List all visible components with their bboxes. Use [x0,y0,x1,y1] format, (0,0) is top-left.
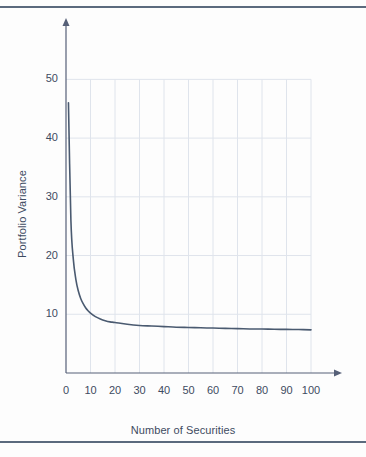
y-tick-label: 30 [32,190,58,202]
x-tick-label: 30 [127,384,153,396]
x-tick-label: 80 [249,384,275,396]
x-tick-label: 0 [53,384,79,396]
y-tick-label: 10 [32,307,58,319]
x-tick-label: 20 [102,384,128,396]
y-axis-title: Portfolio Variance [16,144,28,284]
x-tick-label: 70 [225,384,251,396]
x-tick-label: 90 [274,384,300,396]
x-tick-label: 60 [200,384,226,396]
x-tick-label: 40 [151,384,177,396]
y-axis-arrow-icon [63,18,70,26]
x-tick-label: 50 [176,384,202,396]
x-tick-label: 10 [78,384,104,396]
x-tick-label: 100 [298,384,324,396]
x-axis-title: Number of Securities [0,424,366,436]
y-tick-label: 20 [32,249,58,261]
x-axis-arrow-icon [334,370,342,377]
y-tick-label: 40 [32,131,58,143]
chart-figure: 1020304050 0102030405060708090100 Portfo… [0,0,366,457]
variance-curve [68,103,311,330]
y-tick-label: 50 [32,72,58,84]
